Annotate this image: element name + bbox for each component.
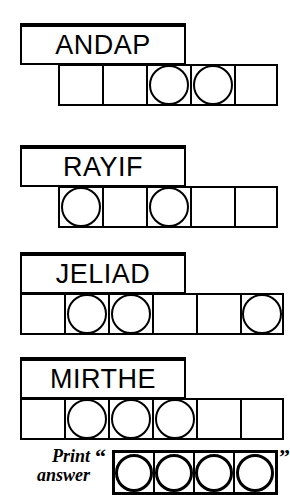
letter-grid-1	[58, 64, 278, 106]
answer-circle	[193, 65, 233, 105]
answer-circle	[195, 454, 233, 492]
letter-grid-2	[58, 186, 278, 228]
letter-cell[interactable]	[20, 293, 64, 335]
print-answer-label-line2: answer	[20, 466, 90, 485]
answer-circle	[155, 454, 193, 492]
letter-cell-circled[interactable]	[64, 293, 108, 335]
letter-cell-circled[interactable]	[240, 293, 284, 335]
word-label-3: JELIAD	[56, 261, 151, 288]
word-box-1: ANDAP	[20, 23, 186, 65]
answer-circle	[149, 65, 189, 105]
letter-cell-circled[interactable]	[152, 398, 196, 440]
letter-grid-4	[20, 398, 284, 440]
letter-cell[interactable]	[102, 186, 146, 228]
answer-circle	[242, 294, 282, 334]
answer-input-box[interactable]	[112, 450, 278, 495]
close-quote: ”	[279, 446, 290, 468]
answer-circle	[155, 399, 195, 439]
answer-cell[interactable]	[195, 453, 235, 492]
word-label-2: RAYIF	[63, 154, 143, 181]
answer-circle	[115, 454, 153, 492]
letter-cell[interactable]	[152, 293, 196, 335]
letter-grid-3	[20, 293, 284, 335]
letter-cell-circled[interactable]	[146, 186, 190, 228]
word-label-4: MIRTHE	[50, 366, 156, 393]
letter-cell[interactable]	[234, 64, 278, 106]
letter-cell[interactable]	[20, 398, 64, 440]
letter-cell-circled[interactable]	[190, 64, 234, 106]
letter-cell[interactable]	[102, 64, 146, 106]
open-quote: “	[95, 446, 106, 468]
letter-cell-circled[interactable]	[108, 398, 152, 440]
letter-cell-circled[interactable]	[58, 186, 102, 228]
letter-cell[interactable]	[196, 398, 240, 440]
letter-cell[interactable]	[190, 186, 234, 228]
answer-cell[interactable]	[235, 453, 275, 492]
answer-circle	[67, 399, 107, 439]
letter-cell-circled[interactable]	[108, 293, 152, 335]
answer-circle	[111, 399, 151, 439]
print-answer-label-line1: Print	[30, 447, 90, 466]
answer-circle	[67, 294, 107, 334]
answer-cell[interactable]	[155, 453, 195, 492]
answer-circle	[111, 294, 151, 334]
letter-cell[interactable]	[240, 398, 284, 440]
answer-circle	[149, 187, 189, 227]
word-box-4: MIRTHE	[20, 357, 186, 399]
letter-cell[interactable]	[196, 293, 240, 335]
letter-cell-circled[interactable]	[146, 64, 190, 106]
letter-cell[interactable]	[58, 64, 102, 106]
letter-cell[interactable]	[234, 186, 278, 228]
word-box-3: JELIAD	[20, 252, 186, 294]
answer-circle	[61, 187, 101, 227]
answer-circle	[236, 454, 274, 492]
print-answer-block: Print answer “ ”	[0, 444, 290, 489]
word-box-2: RAYIF	[20, 145, 186, 187]
word-label-1: ANDAP	[55, 32, 151, 59]
letter-cell-circled[interactable]	[64, 398, 108, 440]
answer-cell[interactable]	[115, 453, 155, 492]
